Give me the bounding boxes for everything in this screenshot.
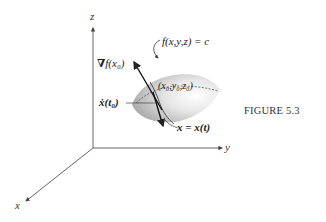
curve-label: x = x(t) (177, 122, 210, 133)
y-axis-label: y (225, 142, 230, 153)
x-axis (26, 148, 93, 201)
gradient-text: f(x₀) (105, 57, 124, 69)
z-axis-label: z (90, 11, 94, 22)
figure-caption: FIGURE 5.3 (244, 106, 300, 117)
surface-leader (154, 40, 160, 58)
velocity-label: ẋ(t₀) (99, 97, 119, 108)
x-axis-label: x (15, 200, 20, 211)
point-label: (x₀,y₀,z₀) (158, 81, 193, 91)
gradient-label: ∇f(x₀) (97, 58, 124, 69)
figure-5-3: z y x f(x,y,z) = c (x₀,y₀,z₀) ∇f(x₀) ẋ(… (0, 0, 326, 222)
surface-equation-label: f(x,y,z) = c (162, 36, 209, 47)
